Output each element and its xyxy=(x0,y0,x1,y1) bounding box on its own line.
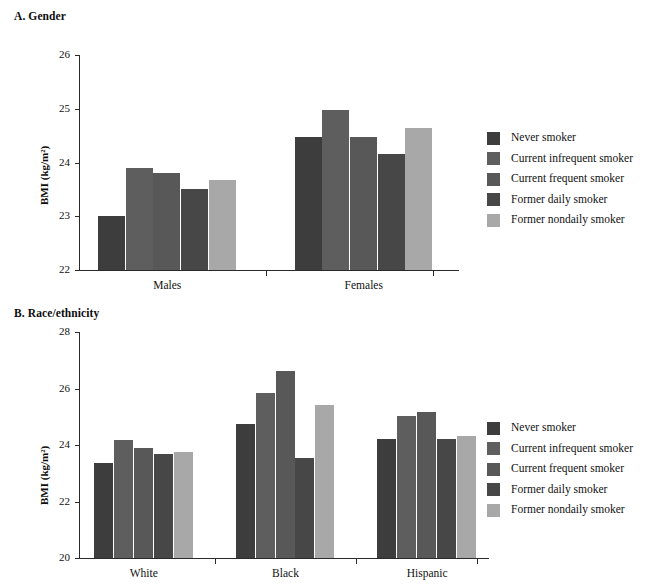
x-tick-mark xyxy=(356,558,357,564)
x-category-label: White xyxy=(94,567,194,579)
legend-swatch-icon xyxy=(487,193,500,206)
legend-label: Current frequent smoker xyxy=(511,169,624,188)
bar xyxy=(417,412,437,558)
y-tick-mark xyxy=(75,270,80,271)
bar xyxy=(378,154,406,270)
bar xyxy=(236,424,256,558)
panel-race-ethnicity: B. Race/ethnicity BMI (kg/m²) 2022242628… xyxy=(0,300,500,585)
y-tick-label: 26 xyxy=(40,48,70,60)
legend-swatch-icon xyxy=(487,173,500,186)
bar xyxy=(315,405,335,558)
x-category-label: Males xyxy=(98,279,237,291)
x-tick-mark xyxy=(433,270,434,276)
y-tick-label: 24 xyxy=(40,438,70,450)
x-tick-mark xyxy=(477,558,478,564)
legend-swatch-icon xyxy=(487,463,500,476)
y-tick-label: 20 xyxy=(40,551,70,563)
figure-root: A. Gender BMI (kg/m²) 2223242526 MalesFe… xyxy=(0,0,660,585)
x-tick-mark xyxy=(266,270,267,276)
legend-label: Current infrequent smoker xyxy=(511,149,633,168)
bar xyxy=(295,458,315,558)
y-tick-label: 23 xyxy=(40,209,70,221)
panel-a-title: A. Gender xyxy=(14,10,66,22)
bar xyxy=(181,189,209,270)
legend-label: Former nondaily smoker xyxy=(511,500,625,519)
legend-swatch-icon xyxy=(487,483,500,496)
panel-b-title: B. Race/ethnicity xyxy=(14,307,99,319)
legend-item: Current frequent smoker xyxy=(487,459,657,480)
legend-swatch-icon xyxy=(487,504,500,517)
bar-group xyxy=(98,55,237,270)
panel-a-plot-area xyxy=(80,55,459,270)
legend-item: Former daily smoker xyxy=(487,480,657,501)
y-tick-mark xyxy=(75,558,80,559)
bar xyxy=(256,393,276,558)
bar xyxy=(114,440,134,558)
legend-swatch-icon xyxy=(487,442,500,455)
bar xyxy=(397,416,417,558)
panel-gender: A. Gender BMI (kg/m²) 2223242526 MalesFe… xyxy=(0,0,470,300)
legend-item: Former nondaily smoker xyxy=(487,500,657,521)
bar xyxy=(174,452,194,559)
legend-label: Current infrequent smoker xyxy=(511,439,633,458)
y-tick-label: 24 xyxy=(40,156,70,168)
legend-swatch-icon xyxy=(487,132,500,145)
panel-a-x-axis xyxy=(79,270,459,271)
legend-swatch-icon xyxy=(487,152,500,165)
legend-item: Current infrequent smoker xyxy=(487,149,657,170)
bar xyxy=(295,137,323,270)
legend-label: Former nondaily smoker xyxy=(511,210,625,229)
bar xyxy=(98,216,126,270)
bar-group xyxy=(94,332,194,558)
bar xyxy=(276,371,296,558)
legend-swatch-icon xyxy=(487,214,500,227)
bar xyxy=(457,436,477,558)
legend-label: Current frequent smoker xyxy=(511,459,624,478)
x-category-label: Black xyxy=(236,567,336,579)
legend-label: Never smoker xyxy=(511,418,576,437)
legend-item: Former daily smoker xyxy=(487,190,657,211)
bar xyxy=(350,137,378,270)
bar xyxy=(405,128,433,270)
bar xyxy=(154,454,174,558)
legend-label: Former daily smoker xyxy=(511,190,607,209)
bar xyxy=(209,180,237,270)
legend-label: Never smoker xyxy=(511,128,576,147)
legend-label: Former daily smoker xyxy=(511,480,607,499)
bar xyxy=(126,168,154,270)
panel-b-plot-area xyxy=(80,332,489,558)
bar-group xyxy=(236,332,336,558)
legend-item: Former nondaily smoker xyxy=(487,210,657,231)
bar xyxy=(153,173,181,270)
x-category-label: Hispanic xyxy=(377,567,477,579)
y-tick-label: 22 xyxy=(40,263,70,275)
bar xyxy=(134,448,154,558)
legend-item: Current frequent smoker xyxy=(487,169,657,190)
legend-swatch-icon xyxy=(487,422,500,435)
bar-group xyxy=(295,55,434,270)
bar xyxy=(377,439,397,558)
bar-group xyxy=(377,332,477,558)
legend-race-ethnicity: Never smokerCurrent infrequent smokerCur… xyxy=(487,418,657,521)
y-tick-label: 26 xyxy=(40,382,70,394)
legend-item: Never smoker xyxy=(487,418,657,439)
y-tick-label: 22 xyxy=(40,495,70,507)
legend-item: Current infrequent smoker xyxy=(487,439,657,460)
legend-gender: Never smokerCurrent infrequent smokerCur… xyxy=(487,128,657,231)
bar xyxy=(437,439,457,558)
panel-b-x-axis xyxy=(79,558,489,559)
x-category-label: Females xyxy=(295,279,434,291)
bar xyxy=(94,463,114,558)
bar xyxy=(322,110,350,270)
legend-item: Never smoker xyxy=(487,128,657,149)
y-tick-label: 25 xyxy=(40,102,70,114)
x-tick-mark xyxy=(215,558,216,564)
y-tick-label: 28 xyxy=(40,325,70,337)
